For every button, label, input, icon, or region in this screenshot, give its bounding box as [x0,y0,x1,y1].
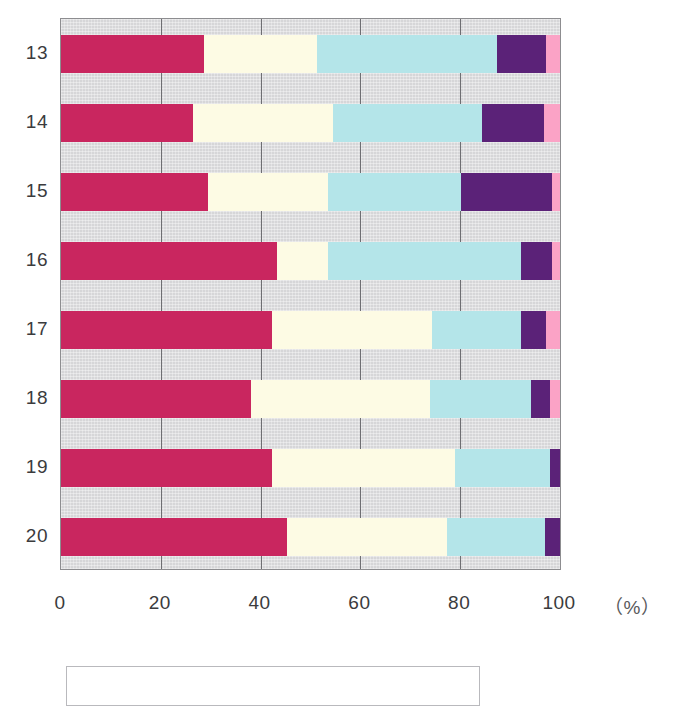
bar-segment-18-series-5 [550,380,560,418]
y-axis-label-17: 17 [0,318,48,340]
bar-row-18 [61,380,560,418]
bar-segment-19-series-3 [455,449,549,487]
bar-segment-13-series-2 [204,35,317,73]
bar-segment-18-series-1 [61,380,251,418]
bar-segment-17-series-4 [521,311,546,349]
bar-segment-20-series-2 [287,518,447,556]
bar-row-15 [61,173,560,211]
bar-segment-14-series-4 [482,104,544,142]
bar-segment-15-series-1 [61,173,208,211]
plot-area [60,18,561,570]
bar-segment-18-series-4 [531,380,550,418]
bar-segment-19-series-1 [61,449,272,487]
y-axis-label-14: 14 [0,111,48,133]
bar-segment-15-series-2 [208,173,328,211]
bar-segment-16-series-4 [521,242,552,280]
bar-row-14 [61,104,560,142]
x-axis-unit-label: （%） [604,592,660,619]
bar-segment-19-series-4 [550,449,561,487]
bar-segment-17-series-5 [546,311,560,349]
x-axis-label-20: 20 [130,592,190,614]
bar-segment-13-series-3 [317,35,497,73]
bar-segment-13-series-1 [61,35,204,73]
bar-segment-13-series-5 [546,35,560,73]
bar-segment-18-series-3 [430,380,531,418]
gridline-80 [460,19,461,569]
bar-row-19 [61,449,560,487]
x-axis-labels: （%） 020406080100 [0,592,678,622]
bar-segment-16-series-2 [277,242,328,280]
y-axis-label-19: 19 [0,456,48,478]
gridline-20 [161,19,162,569]
x-axis-label-100: 100 [529,592,589,614]
bar-segment-16-series-1 [61,242,277,280]
bar-segment-13-series-4 [497,35,546,73]
bar-segment-15-series-3 [328,173,461,211]
y-axis-label-13: 13 [0,42,48,64]
bar-segment-20-series-3 [447,518,545,556]
bar-segment-14-series-1 [61,104,193,142]
bar-row-17 [61,311,560,349]
bar-segment-20-series-4 [545,518,561,556]
bar-segment-20-series-1 [61,518,287,556]
y-axis-label-15: 15 [0,180,48,202]
gridline-40 [261,19,262,569]
bar-row-13 [61,35,560,73]
bar-segment-17-series-3 [432,311,521,349]
x-axis-label-40: 40 [230,592,290,614]
gridline-60 [360,19,361,569]
bar-segment-15-series-4 [461,173,552,211]
bar-segment-17-series-1 [61,311,272,349]
bar-segment-18-series-2 [251,380,430,418]
y-axis-label-20: 20 [0,525,48,547]
x-axis-label-80: 80 [429,592,489,614]
bar-segment-14-series-2 [193,104,333,142]
x-axis-label-0: 0 [30,592,90,614]
x-axis-label-60: 60 [329,592,389,614]
legend-box [66,666,480,706]
bar-segment-14-series-5 [544,104,560,142]
bar-segment-14-series-3 [333,104,482,142]
bar-segment-15-series-5 [552,173,560,211]
bar-segment-16-series-3 [328,242,521,280]
bar-segment-16-series-5 [552,242,560,280]
y-axis-label-18: 18 [0,387,48,409]
bar-row-16 [61,242,560,280]
bar-segment-19-series-2 [272,449,455,487]
y-axis-label-16: 16 [0,249,48,271]
bar-segment-17-series-2 [272,311,432,349]
bar-row-20 [61,518,560,556]
